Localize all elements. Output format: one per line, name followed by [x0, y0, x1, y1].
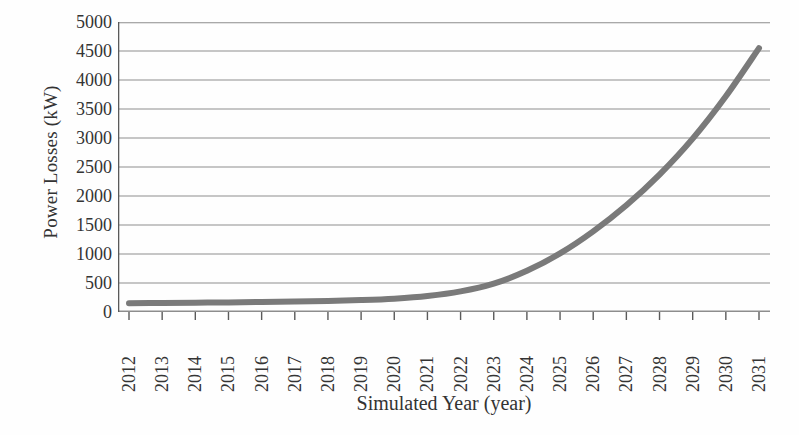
plot-area: [118, 22, 770, 312]
y-tick-label: 1500: [54, 216, 112, 234]
y-axis-tick-labels: 0500100015002000250030003500400045005000: [54, 22, 112, 312]
power-losses-chart-figure: Power Losses (kW) 0500100015002000250030…: [0, 0, 799, 435]
x-tick-label: 2019: [351, 318, 371, 392]
y-tick-label: 3500: [54, 100, 112, 118]
y-tick-label: 4000: [54, 71, 112, 89]
x-tick-label: 2012: [119, 318, 139, 392]
y-tick-label: 0: [54, 303, 112, 321]
x-tick-label: 2021: [417, 318, 437, 392]
x-tick-label: 2023: [484, 318, 504, 392]
x-tick-label: 2024: [517, 318, 537, 392]
gridlines-group: [118, 22, 770, 312]
x-tick-label: 2027: [616, 318, 636, 392]
x-tick-label: 2018: [318, 318, 338, 392]
x-tick-label: 2014: [185, 318, 205, 392]
y-tick-label: 5000: [54, 13, 112, 31]
x-tick-label: 2022: [451, 318, 471, 392]
x-tick-label: 2026: [583, 318, 603, 392]
data-series-line-power-losses: [129, 48, 759, 303]
x-tick-label: 2028: [650, 318, 670, 392]
x-tick-label: 2013: [152, 318, 172, 392]
x-axis-title: Simulated Year (year): [118, 392, 770, 415]
x-tick-label: 2029: [683, 318, 703, 392]
x-tick-label: 2016: [252, 318, 272, 392]
x-tick-label: 2020: [384, 318, 404, 392]
x-tick-label: 2025: [550, 318, 570, 392]
y-tick-label: 3000: [54, 129, 112, 147]
y-tick-label: 2500: [54, 158, 112, 176]
y-tick-label: 2000: [54, 187, 112, 205]
y-tick-label: 500: [54, 274, 112, 292]
y-tick-label: 1000: [54, 245, 112, 263]
chart-plot-svg: [118, 22, 770, 322]
x-tick-label: 2017: [285, 318, 305, 392]
y-tick-label: 4500: [54, 42, 112, 60]
x-tick-label: 2015: [218, 318, 238, 392]
x-axis-tick-labels: 2012201320142015201620172018201920202021…: [118, 318, 770, 392]
x-tick-label: 2030: [716, 318, 736, 392]
x-tick-label: 2031: [749, 318, 769, 392]
